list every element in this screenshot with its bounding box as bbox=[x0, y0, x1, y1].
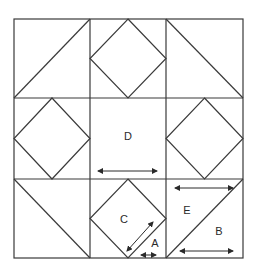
corner-diagonal-bottom-left bbox=[14, 179, 90, 258]
corner-diagonal-bottom-right bbox=[166, 179, 243, 258]
label-d: D bbox=[124, 130, 132, 142]
label-e: E bbox=[183, 204, 190, 216]
corner-diagonal-top-right bbox=[166, 19, 243, 98]
quilt-block-diagram: D C A E B bbox=[0, 0, 256, 280]
diamond-left bbox=[14, 98, 90, 179]
diamond-right bbox=[166, 98, 243, 179]
label-c: C bbox=[120, 213, 128, 225]
label-b: B bbox=[215, 225, 222, 237]
corner-diagonal-top-left bbox=[14, 19, 90, 98]
label-a: A bbox=[151, 237, 159, 249]
diamond-top bbox=[90, 19, 166, 98]
